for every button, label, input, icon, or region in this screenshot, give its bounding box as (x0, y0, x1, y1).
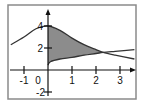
x-tick-label: 2 (93, 75, 99, 86)
y-tick-label: -2 (36, 87, 45, 98)
x-tick-label: -1 (20, 75, 29, 86)
x-tick-label: 1 (69, 75, 75, 86)
x-tick-label: 3 (117, 75, 123, 86)
x-tick-label: 0 (35, 75, 41, 86)
y-tick-label: 2 (37, 43, 43, 54)
y-tick-label: 4 (37, 21, 43, 32)
chart: -1 0 1 2 3 4 2 -2 (0, 0, 141, 103)
